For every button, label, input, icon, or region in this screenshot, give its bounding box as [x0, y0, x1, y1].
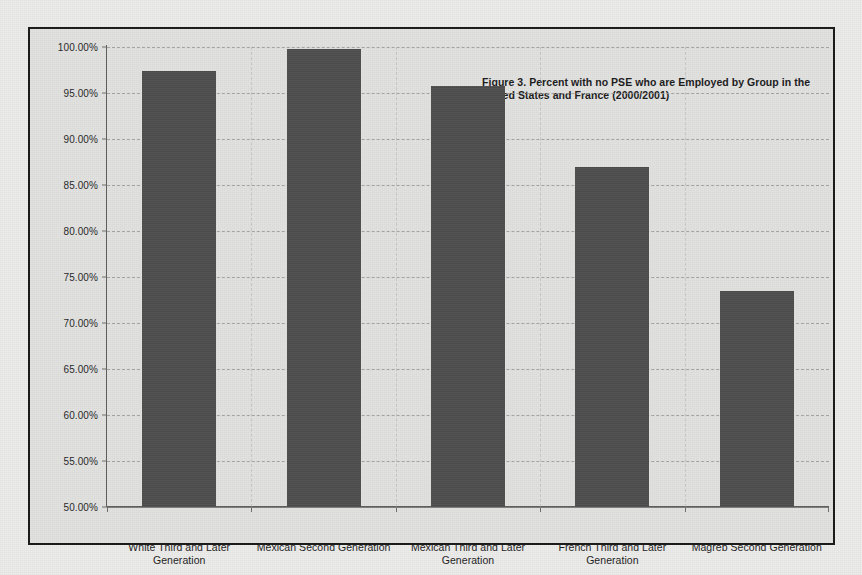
bar[interactable]: [720, 291, 794, 507]
chart-frame: Figure 3. Percent with no PSE who are Em…: [28, 27, 835, 545]
x-axis-category-label: Magreb Second Generation: [685, 541, 829, 554]
bar[interactable]: [575, 167, 649, 507]
scanned-page: Figure 3. Percent with no PSE who are Em…: [0, 0, 862, 575]
y-axis-tick-label: 70.00%: [63, 318, 98, 329]
x-tick-mark: [828, 507, 829, 512]
bar-slot: [396, 47, 540, 507]
bar[interactable]: [287, 49, 361, 507]
bar-slot: [685, 47, 829, 507]
x-axis-category-label: Mexican Third and LaterGeneration: [396, 541, 540, 567]
x-axis-category-label-line: Mexican Third and Later: [396, 541, 540, 554]
y-axis-tick-label: 85.00%: [63, 180, 98, 191]
x-tick-mark: [107, 507, 108, 512]
x-axis-category-label-line: Magreb Second Generation: [685, 541, 829, 554]
bar-slot: [251, 47, 395, 507]
y-axis-tick-label: 75.00%: [63, 272, 98, 283]
y-axis-tick-label: 50.00%: [63, 502, 98, 513]
gridline-50: [107, 507, 829, 508]
bar[interactable]: [142, 71, 216, 507]
y-axis-tick-label: 90.00%: [63, 134, 98, 145]
bar-slot: [540, 47, 684, 507]
plot-area: 100.00%95.00%90.00%85.00%80.00%75.00%70.…: [107, 47, 829, 507]
bar[interactable]: [431, 86, 505, 507]
x-axis-category-label: White Third and LaterGeneration: [107, 541, 251, 567]
y-axis-tick-label: 80.00%: [63, 226, 98, 237]
x-tick-mark: [540, 507, 541, 512]
x-axis-category-label-line: French Third and Later: [540, 541, 684, 554]
x-axis-category-label-line: Generation: [396, 554, 540, 567]
y-axis-tick-label: 95.00%: [63, 88, 98, 99]
y-axis-tick-label: 60.00%: [63, 410, 98, 421]
x-axis-category-label-line: White Third and Later: [107, 541, 251, 554]
x-axis-category-label-line: Generation: [107, 554, 251, 567]
x-axis-category-label: French Third and LaterGeneration: [540, 541, 684, 567]
x-axis-category-label-line: Mexican Second Generation: [251, 541, 395, 554]
x-axis-category-label: Mexican Second Generation: [251, 541, 395, 554]
y-axis-tick-label: 55.00%: [63, 456, 98, 467]
x-tick-mark: [685, 507, 686, 512]
y-axis-tick-label: 100.00%: [58, 42, 98, 53]
y-axis-tick-label: 65.00%: [63, 364, 98, 375]
x-axis-category-label-line: Generation: [540, 554, 684, 567]
bar-slot: [107, 47, 251, 507]
x-tick-mark: [396, 507, 397, 512]
x-tick-mark: [251, 507, 252, 512]
